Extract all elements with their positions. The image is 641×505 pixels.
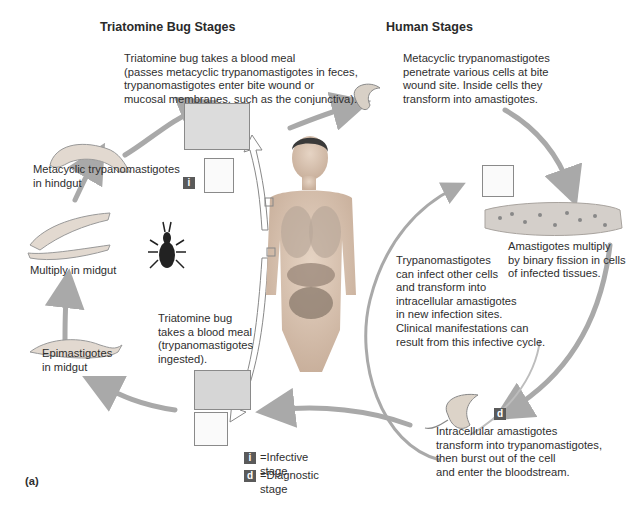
penetrating-trypomastigote-image — [354, 84, 380, 109]
step-transform-burst: Intracellular amastigotes transform into… — [436, 425, 602, 479]
step-metacyclic-hindgut: Metacyclic trypanomastigotes in hindgut — [33, 163, 180, 190]
legend-diagnostic-badge: d — [244, 470, 256, 482]
human-figure-image — [266, 136, 356, 372]
trypomastigote-inset-bottom — [194, 412, 228, 446]
bug-feeding-inset — [194, 370, 251, 410]
infected-cell-inset — [482, 165, 514, 197]
step-bug-blood-meal-ingest: Triatomine bug takes a blood meal (trypa… — [158, 312, 253, 366]
infected-tissue-image — [485, 203, 622, 236]
legend-infective-badge: i — [244, 452, 256, 464]
diagnostic-stage-badge: d — [494, 408, 506, 420]
step-penetrate-cells: Metacyclic trypanomastigotes penetrate v… — [403, 52, 550, 106]
bug-biting-inset — [184, 103, 250, 150]
intracellular-trypomastigote-image — [446, 394, 478, 428]
step-multiply-midgut: Multiply in midgut — [30, 264, 116, 278]
bug-stages-heading: Triatomine Bug Stages — [100, 20, 235, 34]
step-reinfect: Trypanomastigotes can infect other cells… — [396, 254, 545, 349]
infective-stage-badge: i — [183, 177, 195, 189]
trypomastigote-inset-top — [204, 158, 234, 193]
step-bug-blood-meal-infect: Triatomine bug takes a blood meal (passe… — [124, 52, 358, 106]
panel-label: (a) — [25, 475, 39, 489]
legend-diagnostic-label: =Diagnostic stage — [260, 469, 319, 496]
step-epimastigotes: Epimastigotes in midgut — [42, 347, 112, 374]
human-stages-heading: Human Stages — [386, 20, 473, 34]
dividing-epimastigotes-image — [30, 213, 110, 250]
triatomine-bug-image — [148, 222, 186, 268]
